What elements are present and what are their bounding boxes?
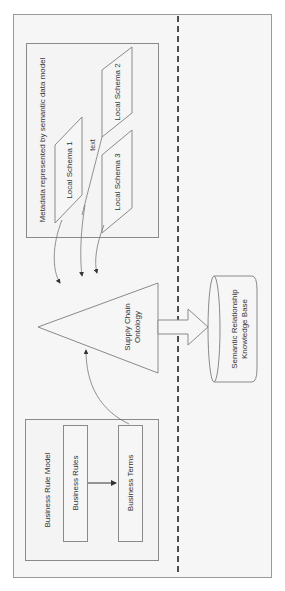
diagram-canvas: Metadata represented by semantic data mo… bbox=[0, 0, 285, 591]
local-schema-2-label: Local Schema 2 bbox=[113, 63, 122, 121]
business-rules-box[interactable]: Business Rules bbox=[64, 426, 88, 542]
knowledge-base-label-line2: Knowledge Base bbox=[240, 298, 249, 359]
knowledge-base-label-line1: Semantic Relationship bbox=[230, 289, 239, 369]
metadata-group-label: Metadata represented by semantic data mo… bbox=[38, 57, 47, 222]
text-edge-label: text bbox=[89, 139, 96, 150]
business-rule-model-group: Business Rule Model Business Rules Busin… bbox=[26, 420, 159, 561]
local-schema-1-label: Local Schema 1 bbox=[65, 141, 74, 199]
local-schema-3-label: Local Schema 3 bbox=[113, 153, 122, 211]
business-terms-box[interactable]: Business Terms bbox=[119, 426, 143, 542]
business-rules-label: Business Rules bbox=[71, 455, 80, 510]
metadata-group: Metadata represented by semantic data mo… bbox=[27, 44, 159, 238]
business-rule-model-label: Business Rule Model bbox=[43, 452, 52, 527]
ontology-label-line2: Ontology bbox=[133, 311, 142, 343]
knowledge-base-cylinder[interactable]: Semantic Relationship Knowledge Base bbox=[208, 276, 257, 382]
business-terms-label: Business Terms bbox=[126, 455, 135, 511]
ontology-label-line1: Supply Chain bbox=[123, 303, 132, 351]
